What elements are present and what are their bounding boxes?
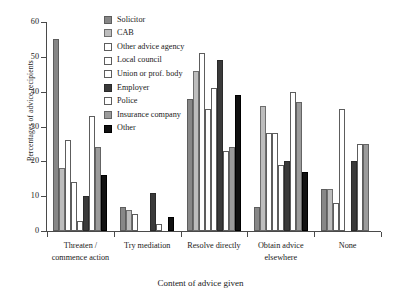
- legend-item-employer[interactable]: Employer: [104, 81, 184, 95]
- legend-label: Solicitor: [117, 16, 145, 24]
- y-axis-title: Percentages of advice recipients: [26, 21, 35, 201]
- bar-other: [302, 172, 308, 231]
- legend-swatch-icon: [104, 84, 112, 92]
- legend-label: Employer: [117, 84, 149, 92]
- x-axis-title: Content of advice given: [0, 278, 401, 288]
- x-tick: [47, 232, 48, 237]
- legend-item-other[interactable]: Other: [104, 122, 184, 136]
- x-tick: [381, 232, 382, 237]
- x-category-label: Try mediation: [114, 240, 181, 264]
- plot-area: 0102030405060: [46, 22, 381, 232]
- legend-swatch-icon: [104, 70, 112, 78]
- legend: SolicitorCABOther advice agencyLocal cou…: [104, 13, 184, 135]
- y-tick-label: 30: [31, 122, 39, 130]
- x-tick: [181, 232, 182, 237]
- y-tick-label: 10: [31, 192, 39, 200]
- legend-swatch-icon: [104, 111, 112, 119]
- x-axis-line: [46, 231, 381, 232]
- x-tick: [114, 232, 115, 237]
- legend-swatch-icon: [104, 125, 112, 133]
- y-tick: [41, 196, 46, 197]
- legend-swatch-icon: [104, 43, 112, 51]
- y-tick-label: 20: [31, 157, 39, 165]
- bar-police: [156, 224, 162, 231]
- x-category-label: Resolve directly: [181, 240, 248, 264]
- legend-item-otheradv[interactable]: Other advice agency: [104, 40, 184, 54]
- x-category-label-line: Threaten /: [47, 240, 114, 252]
- x-axis-category-labels: Threaten /commence actionTry mediation R…: [47, 240, 381, 264]
- x-category-label-line: None: [314, 240, 381, 252]
- y-tick: [41, 92, 46, 93]
- legend-swatch-icon: [104, 97, 112, 105]
- legend-item-council[interactable]: Local council: [104, 54, 184, 68]
- legend-label: Insurance company: [117, 111, 181, 119]
- x-category-label-line: commence action: [47, 252, 114, 264]
- x-category-label-line: [181, 252, 248, 264]
- x-tick: [314, 232, 315, 237]
- x-category-label: Threaten /commence action: [47, 240, 114, 264]
- x-category-label: None: [314, 240, 381, 264]
- x-category-label-line: Resolve directly: [181, 240, 248, 252]
- x-category-label-line: [114, 252, 181, 264]
- legend-swatch-icon: [104, 57, 112, 65]
- bar-otheradv: [132, 214, 138, 231]
- bar-council: [339, 109, 345, 231]
- y-tick-label: 0: [35, 227, 39, 235]
- y-tick-label: 40: [31, 88, 39, 96]
- legend-label: Police: [117, 97, 137, 105]
- legend-label: Local council: [117, 56, 162, 64]
- bar-other: [235, 95, 241, 231]
- bar-other: [168, 217, 174, 231]
- legend-label: Other: [117, 124, 136, 132]
- y-tick: [41, 22, 46, 23]
- legend-label: CAB: [117, 29, 134, 37]
- bar-group: [181, 22, 248, 231]
- legend-swatch-icon: [104, 16, 112, 24]
- x-category-label: Obtain adviceelsewhere: [247, 240, 314, 264]
- bar-group: [314, 22, 381, 231]
- y-tick-label: 60: [31, 18, 39, 26]
- legend-item-union[interactable]: Union or prof. body: [104, 67, 184, 81]
- y-tick: [41, 161, 46, 162]
- x-category-label-line: Obtain advice: [247, 240, 314, 252]
- bar-groups: [47, 22, 381, 231]
- bar-group: [247, 22, 314, 231]
- bar-chart: Percentages of advice recipients 0102030…: [0, 0, 401, 300]
- legend-item-police[interactable]: Police: [104, 95, 184, 109]
- x-category-label-line: Try mediation: [114, 240, 181, 252]
- legend-item-solicitor[interactable]: Solicitor: [104, 13, 184, 27]
- legend-label: Union or prof. body: [117, 70, 183, 78]
- x-category-label-line: [314, 252, 381, 264]
- legend-swatch-icon: [104, 29, 112, 37]
- x-category-label-line: elsewhere: [247, 252, 314, 264]
- x-tick: [247, 232, 248, 237]
- y-tick: [41, 231, 46, 232]
- y-tick-label: 50: [31, 53, 39, 61]
- legend-item-insurance[interactable]: Insurance company: [104, 108, 184, 122]
- legend-label: Other advice agency: [117, 43, 184, 51]
- y-tick: [41, 127, 46, 128]
- legend-item-cab[interactable]: CAB: [104, 27, 184, 41]
- bar-other: [101, 175, 107, 231]
- bar-insurance: [363, 144, 369, 231]
- y-tick: [41, 57, 46, 58]
